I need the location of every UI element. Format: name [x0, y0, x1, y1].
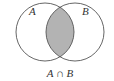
set-a-label: A — [28, 5, 36, 17]
set-b-label: B — [82, 5, 89, 17]
venn-diagram: A B A ∩ B — [0, 0, 114, 81]
caption: A ∩ B — [46, 67, 74, 79]
